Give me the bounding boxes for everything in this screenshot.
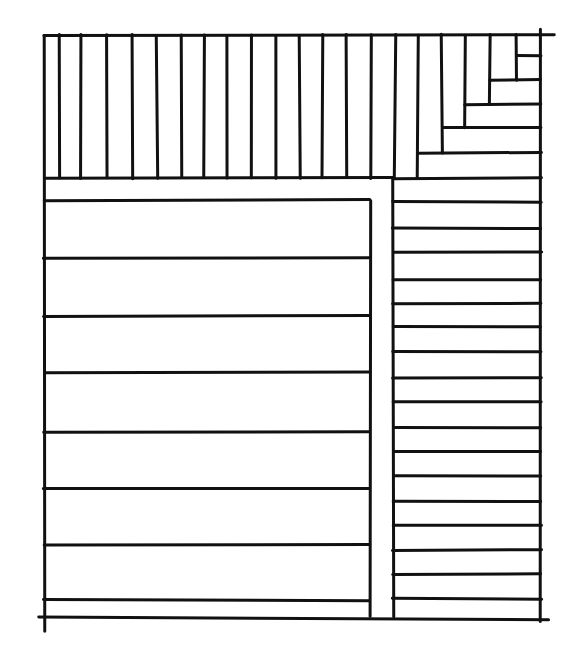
band-stripe-line bbox=[132, 35, 133, 179]
band-stripe-line bbox=[346, 34, 347, 177]
staircase-corner-boards bbox=[393, 34, 541, 178]
band-stripe-line bbox=[371, 35, 372, 179]
right-board-line bbox=[392, 228, 540, 229]
stair-horizontal-line bbox=[418, 152, 541, 153]
right-narrow-board-column bbox=[392, 178, 541, 617]
band-stripe-line bbox=[417, 35, 418, 178]
band-stripe-line bbox=[181, 35, 182, 177]
right-board-line bbox=[393, 574, 541, 575]
stair-vertical-line bbox=[489, 34, 490, 103]
right-board-line bbox=[392, 550, 541, 551]
parquet-pattern-sketch bbox=[0, 0, 577, 661]
band-stripe-line bbox=[204, 35, 205, 177]
band-stripe-line bbox=[394, 34, 395, 177]
left-horizontal-board-panel bbox=[43, 200, 370, 617]
right-board-line bbox=[393, 202, 542, 203]
frame-left-line bbox=[44, 36, 45, 631]
stair-base-line bbox=[393, 178, 541, 179]
outer-frame bbox=[39, 29, 555, 631]
left-board-line bbox=[44, 200, 369, 201]
band-stripe-line bbox=[299, 36, 300, 179]
stair-horizontal-line bbox=[465, 104, 541, 105]
left-board-line bbox=[43, 599, 369, 600]
vertical-stripe-band bbox=[44, 34, 418, 178]
stair-vertical-line bbox=[465, 35, 466, 128]
stair-horizontal-line bbox=[490, 79, 541, 80]
left-board-line bbox=[44, 316, 370, 317]
left-panel-right-edge bbox=[370, 201, 371, 617]
stair-vertical-line bbox=[441, 34, 442, 153]
frame-bottom-line bbox=[39, 617, 549, 620]
band-stripe-line bbox=[322, 35, 323, 178]
right-board-line bbox=[392, 598, 541, 599]
left-board-line bbox=[45, 372, 370, 373]
band-stripe-line bbox=[156, 36, 157, 179]
band-bottom-line bbox=[44, 178, 393, 179]
